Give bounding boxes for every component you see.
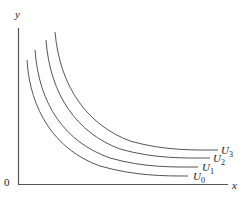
x-axis-label: x xyxy=(231,179,237,191)
curve-u1 xyxy=(35,50,198,167)
y-axis-label: y xyxy=(14,8,20,20)
indifference-curve-diagram: y x 0 U0 U1 U2 U3 xyxy=(0,0,251,200)
curve-label-u3: U3 xyxy=(221,144,233,159)
curve-u3 xyxy=(55,32,218,150)
curve-u0 xyxy=(27,60,188,176)
origin-label: 0 xyxy=(4,176,10,188)
